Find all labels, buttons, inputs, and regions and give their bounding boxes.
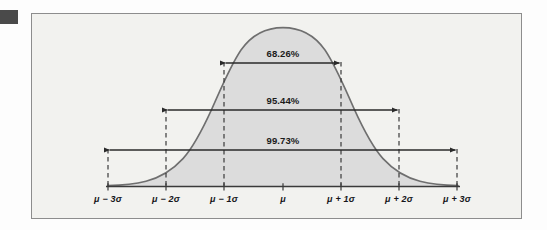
percent-label-two-sigma: 95.44% (264, 95, 303, 106)
figure-root: 68.26% 95.44% 99.73% μ − 3σ μ − 2σ μ − 1… (0, 0, 547, 230)
percent-label-three-sigma: 99.73% (264, 135, 303, 146)
x-tick-label-minus-1-sigma: μ − 1σ (210, 194, 238, 204)
x-tick-label-plus-2-sigma: μ + 2σ (385, 194, 413, 204)
x-tick-label-minus-2-sigma: μ − 2σ (152, 194, 180, 204)
x-tick-label-plus-1-sigma: μ + 1σ (327, 194, 355, 204)
percent-label-one-sigma: 68.26% (264, 48, 303, 59)
x-tick-label-mu: μ (280, 194, 286, 204)
x-tick-label-plus-3-sigma: μ + 3σ (443, 194, 471, 204)
x-tick-label-minus-3-sigma: μ − 3σ (94, 194, 122, 204)
